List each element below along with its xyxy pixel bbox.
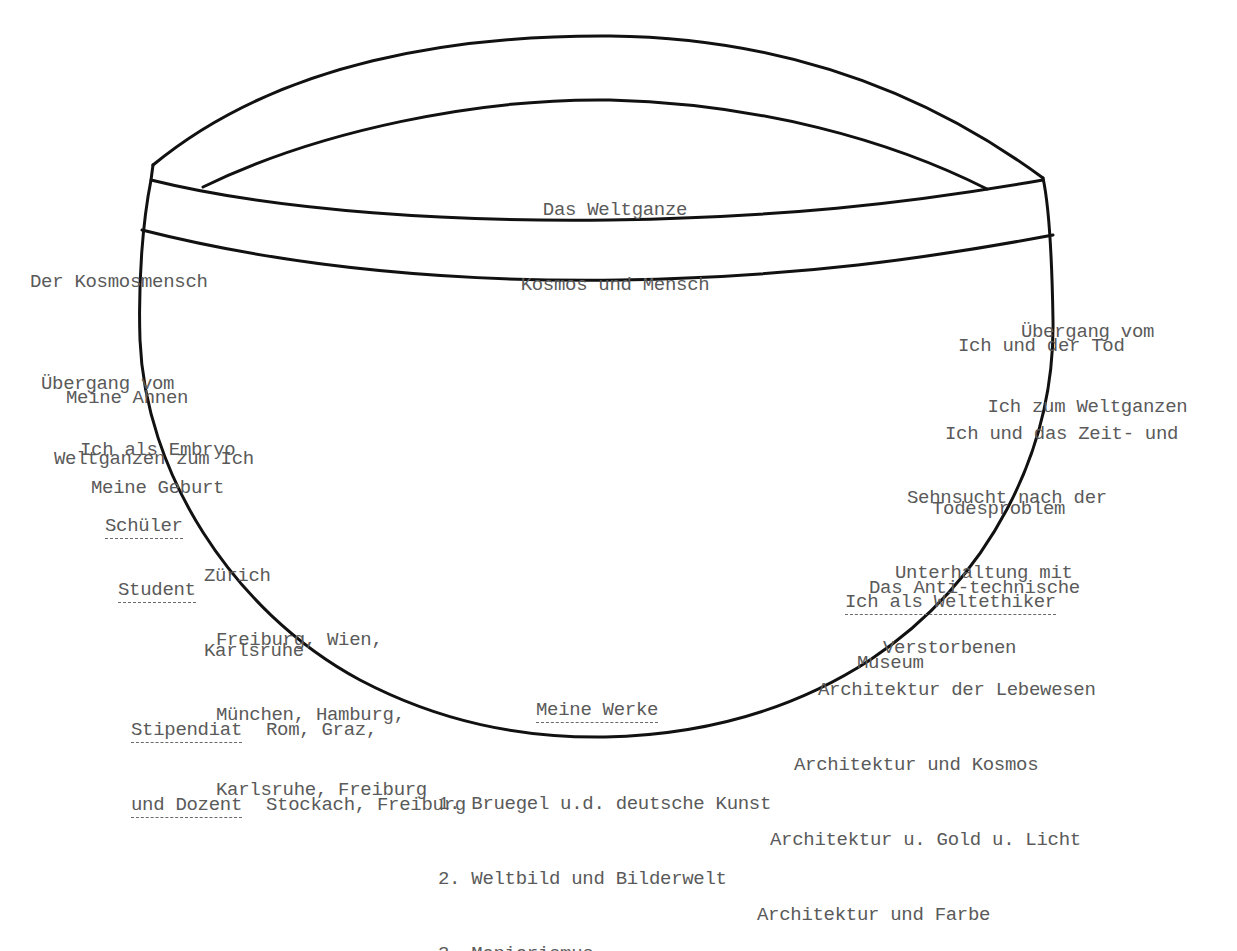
werke-item: 2. Weltbild und Bilderwelt xyxy=(438,867,771,892)
right-weltethiker: Ich als Weltethiker xyxy=(845,590,1056,615)
left-ahnen: Meine Ahnen xyxy=(66,386,188,411)
left-student-label: Student xyxy=(118,578,196,603)
title-line-1: Das Weltganze xyxy=(470,198,760,223)
werke-heading: Meine Werke xyxy=(536,698,658,723)
left-stipendiat-places: Rom, Graz, Stockach, Freiburg xyxy=(266,668,466,843)
left-schueler-label: Schüler xyxy=(105,514,183,539)
left-stipendiat-label: Stipendiat und Dozent xyxy=(131,668,242,843)
title-block: Das Weltganze Kosmos und Mensch xyxy=(470,148,760,323)
left-geburt: Meine Geburt xyxy=(91,476,224,501)
werke-item: 3. Manierismus xyxy=(438,942,771,951)
werke-item: 1. Bruegel u.d. deutsche Kunst xyxy=(438,792,771,817)
right-architektur: Architektur der Lebewesen Architektur un… xyxy=(757,628,1096,951)
right-tod: Ich und der Tod xyxy=(958,334,1125,359)
title-line-2: Kosmos und Mensch xyxy=(470,273,760,298)
left-kosmosmensch: Der Kosmosmensch xyxy=(30,270,208,295)
werke-list: 1. Bruegel u.d. deutsche Kunst 2. Weltbi… xyxy=(438,742,771,951)
left-embryo: Ich als Embryo xyxy=(80,438,235,463)
